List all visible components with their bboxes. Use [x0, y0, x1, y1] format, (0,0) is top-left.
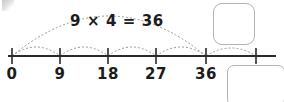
- tick-label-18: 18: [97, 67, 119, 82]
- hop-36-to-45: [206, 48, 256, 56]
- hop-18-to-27: [108, 47, 156, 56]
- tick-label-36: 36: [195, 67, 217, 82]
- hop-0-to-9: [12, 47, 60, 56]
- tick-label-9: 9: [55, 67, 66, 82]
- answer-box-bottom[interactable]: [227, 65, 284, 102]
- axis-group: [8, 48, 276, 64]
- hop-27-to-36: [156, 47, 206, 56]
- worksheet-canvas: 9 × 4 = 36 0 9 18 27 36: [0, 0, 284, 102]
- answer-box-top[interactable]: [213, 3, 255, 45]
- tick-label-27: 27: [145, 67, 167, 82]
- tick-label-0: 0: [7, 67, 18, 82]
- hop-9-to-18: [60, 47, 108, 56]
- equation-label: 9 × 4 = 36: [70, 14, 164, 29]
